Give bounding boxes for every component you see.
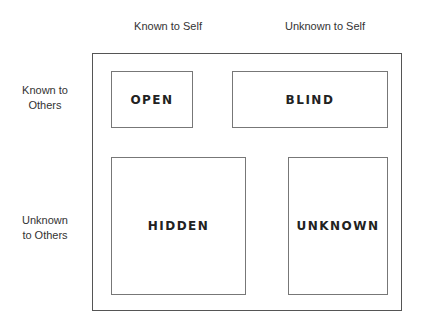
pane-unknown: UNKNOWN	[288, 157, 388, 295]
pane-hidden-label: HIDDEN	[148, 219, 210, 233]
pane-open-label: OPEN	[130, 93, 173, 107]
row-header-line: Others	[10, 98, 80, 113]
pane-open: OPEN	[111, 71, 193, 128]
row-header-line: to Others	[10, 228, 80, 243]
column-header-known-to-self: Known to Self	[118, 20, 218, 32]
pane-blind: BLIND	[232, 71, 388, 128]
row-header-known-to-others: Known to Others	[10, 83, 80, 113]
pane-hidden: HIDDEN	[111, 157, 246, 295]
pane-unknown-label: UNKNOWN	[296, 219, 379, 233]
row-header-unknown-to-others: Unknown to Others	[10, 213, 80, 243]
column-header-unknown-to-self: Unknown to Self	[270, 20, 380, 32]
pane-blind-label: BLIND	[286, 93, 335, 107]
row-header-line: Unknown	[10, 213, 80, 228]
row-header-line: Known to	[10, 83, 80, 98]
